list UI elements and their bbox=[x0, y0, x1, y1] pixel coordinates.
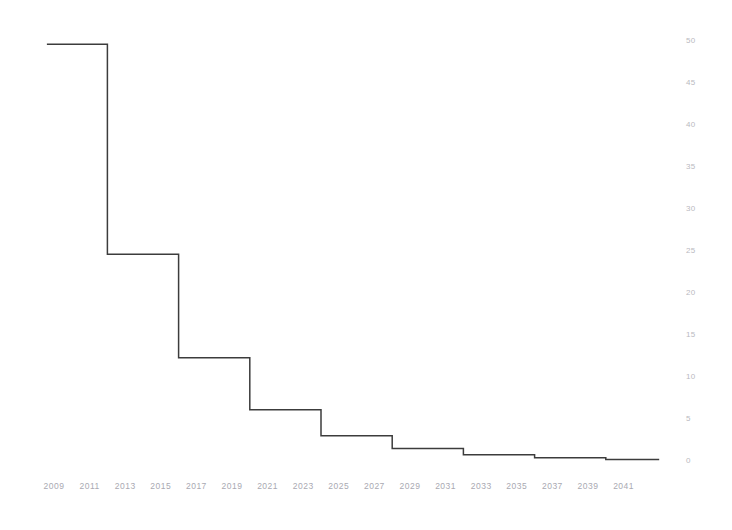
chart-plot-area bbox=[0, 0, 732, 530]
chart-container: 05101520253035404550 2009201120132015201… bbox=[0, 0, 732, 530]
step-line-series bbox=[47, 44, 659, 459]
